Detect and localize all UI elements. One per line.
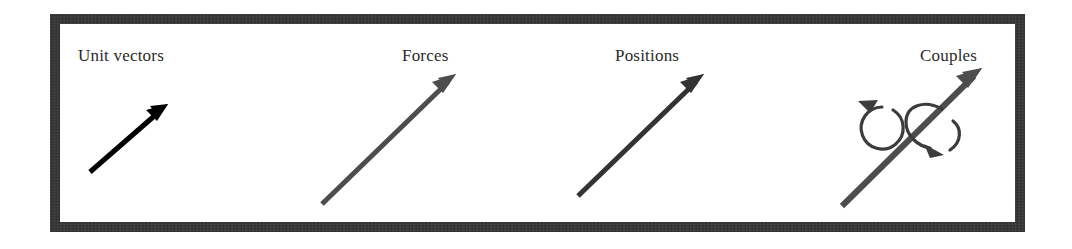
position-vector-arrow-graphic: [560, 24, 820, 222]
panel-unit-vectors: Unit vectors: [60, 24, 310, 222]
panel-forces: Forces: [310, 24, 560, 222]
couple-wrap-curl-back: [950, 121, 959, 150]
couple-circular-arrow-icon: [858, 100, 903, 149]
position-vector-arrow: [578, 74, 704, 196]
figure-content-area: Unit vectors Forces Positi: [60, 24, 1015, 222]
force-vector-arrow: [322, 74, 456, 204]
panel-couples: Couples: [820, 24, 1015, 222]
force-vector-arrow-graphic: [310, 24, 560, 222]
figure-root: Unit vectors Forces Positi: [0, 0, 1072, 249]
couple-graphic: [820, 24, 1015, 222]
panel-positions: Positions: [560, 24, 820, 222]
unit-vector-arrow: [90, 104, 168, 172]
unit-vector-arrow-graphic: [60, 24, 310, 222]
